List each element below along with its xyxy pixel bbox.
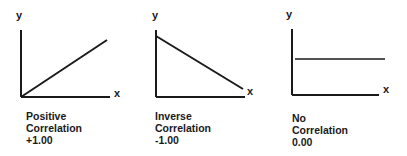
trend-line — [156, 36, 243, 89]
x-axis-label: x — [247, 85, 254, 97]
caption-line: Inverse — [155, 110, 211, 122]
caption-none: No Correlation 0.00 — [292, 112, 348, 148]
panel-positive: y x — [16, 9, 121, 99]
x-axis-label: x — [383, 83, 390, 95]
caption-line: No — [292, 112, 348, 124]
y-axis-label: y — [16, 9, 23, 21]
caption-line: Positive — [26, 110, 82, 122]
panel-inverse: y x — [152, 9, 254, 97]
y-axis-label: y — [152, 9, 159, 21]
caption-line: Correlation — [155, 122, 211, 134]
correlation-value: 0.00 — [292, 136, 348, 148]
x-axis-label: x — [114, 87, 121, 99]
correlation-value: -1.00 — [155, 134, 211, 146]
caption-line: Correlation — [292, 124, 348, 136]
caption-positive: Positive Correlation +1.00 — [26, 110, 82, 146]
y-axis-label: y — [286, 8, 293, 20]
panel-none: y x — [286, 8, 390, 95]
trend-line — [21, 40, 107, 97]
correlation-value: +1.00 — [26, 134, 82, 146]
caption-line: Correlation — [26, 122, 82, 134]
caption-inverse: Inverse Correlation -1.00 — [155, 110, 211, 146]
